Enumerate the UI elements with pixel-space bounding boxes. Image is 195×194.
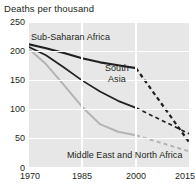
series-line-projection [136, 108, 190, 134]
x-axis-tick-label: 2000 [126, 172, 146, 181]
plot-area [28, 22, 190, 168]
gridline-horizontal [28, 22, 190, 23]
x-axis-tick-label: 2015 [175, 172, 195, 181]
y-axis-tick-label: 100 [1, 105, 25, 114]
y-axis: 050100150200250 [0, 0, 25, 194]
gridline-horizontal [28, 109, 190, 110]
series-label-south-asia-line2: Asia [105, 74, 129, 85]
x-axis-tick-label: 1985 [72, 172, 92, 181]
chart-container: Deaths per thousand 050100150200250 Sub-… [0, 0, 195, 194]
gridline-horizontal [28, 138, 190, 139]
chart-lines [28, 22, 190, 168]
y-axis-tick-label: 150 [1, 76, 25, 85]
series-label-south-asia-line1: South [105, 63, 129, 74]
gridline-vertical [189, 22, 190, 168]
series-label-middle-east-north-africa: Middle East and North Africa [67, 150, 182, 161]
y-axis-tick-label: 250 [1, 18, 25, 27]
gridline-vertical [28, 22, 29, 168]
gridline-horizontal [28, 51, 190, 52]
gridline-vertical [81, 22, 82, 168]
series-label-south-asia: South Asia [105, 63, 129, 84]
x-axis-tick-label: 1970 [20, 172, 40, 181]
series-label-sub-saharan-africa: Sub-Saharan Africa [31, 32, 110, 43]
gridline-horizontal [28, 167, 190, 168]
y-axis-tick-label: 200 [1, 47, 25, 56]
y-axis-tick-label: 50 [1, 134, 25, 143]
gridline-vertical [135, 22, 136, 168]
